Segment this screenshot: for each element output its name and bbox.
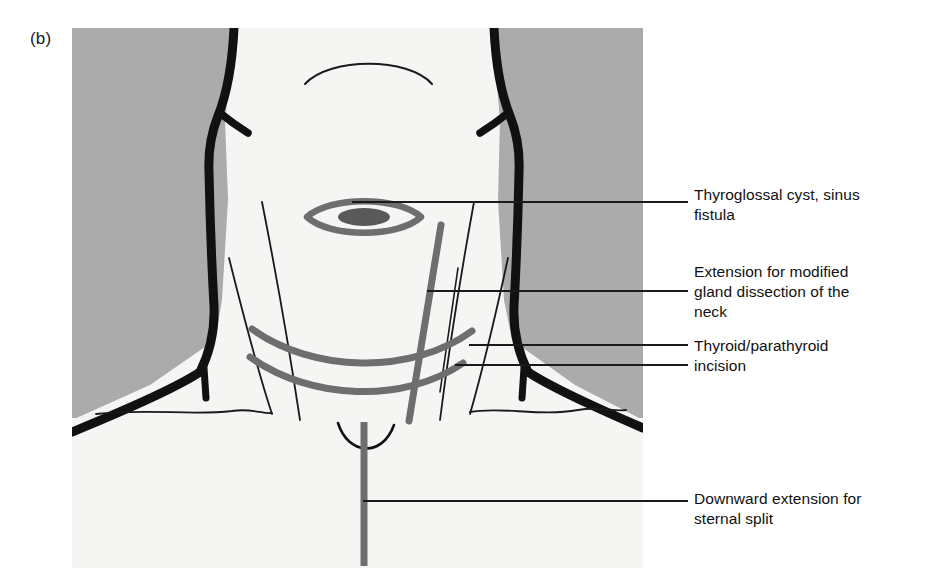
callout-thyroglossal-cyst: Thyroglossal cyst, sinus fistula [694, 185, 860, 225]
right-clavicle-stub [522, 368, 524, 398]
callout-sternal-split: Downward extension for sternal split [694, 489, 861, 529]
callout-thyroid-parathyroid-incision: Thyroid/parathyroid incision [694, 336, 829, 376]
thyroglossal-cyst-center [338, 208, 390, 226]
illustration-panel [72, 28, 643, 568]
left-clavicle-stub [204, 368, 206, 398]
callout-neck-dissection-extension: Extension for modified gland dissection … [694, 262, 849, 322]
figure-b-neck-incisions: (b) [0, 0, 935, 587]
chest-region [72, 418, 643, 568]
